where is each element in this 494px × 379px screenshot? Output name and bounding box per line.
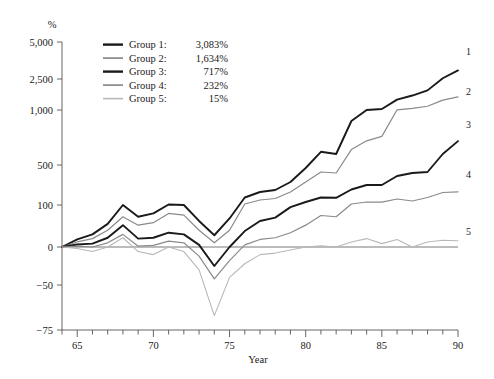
- x-tick-label: 80: [300, 340, 311, 351]
- x-axis-title: Year: [248, 354, 268, 365]
- legend-label: Group 2:: [129, 53, 167, 64]
- legend-value: 232%: [204, 80, 229, 91]
- series-end-label: 3: [466, 119, 471, 130]
- y-tick-label: −50: [37, 280, 53, 291]
- legend-label: Group 3:: [129, 66, 167, 77]
- series-end-label: 4: [466, 169, 471, 180]
- x-tick-label: 85: [377, 340, 388, 351]
- series-end-labels: 12345: [466, 46, 471, 237]
- y-tick-label: 1,000: [29, 105, 53, 116]
- legend-label: Group 4:: [129, 80, 167, 91]
- y-axis-unit-label: %: [48, 19, 57, 30]
- x-tick-label: 70: [148, 340, 159, 351]
- x-axis: 657075808590: [62, 330, 463, 351]
- series-end-label: 1: [466, 46, 471, 57]
- legend: Group 1:3,083%Group 2:1,634%Group 3:717%…: [103, 39, 228, 104]
- legend-label: Group 1:: [129, 39, 167, 50]
- legend-value: 717%: [204, 66, 229, 77]
- series-lines: [62, 70, 458, 315]
- legend-value: 15%: [209, 93, 229, 104]
- x-tick-label: 75: [224, 340, 235, 351]
- line-chart: 5,0002,5001,0005001000−50−75 65707580859…: [0, 0, 494, 379]
- chart-canvas: 5,0002,5001,0005001000−50−75 65707580859…: [0, 0, 494, 379]
- series-line: [62, 97, 458, 247]
- y-tick-label: 2,500: [29, 74, 53, 85]
- series-line: [62, 238, 458, 316]
- series-end-label: 2: [466, 86, 471, 97]
- y-tick-label: 500: [37, 160, 53, 171]
- legend-value: 1,634%: [196, 53, 229, 64]
- legend-label: Group 5:: [129, 93, 167, 104]
- series-end-label: 5: [466, 226, 471, 237]
- x-tick-label: 90: [453, 340, 464, 351]
- legend-value: 3,083%: [196, 39, 229, 50]
- x-tick-label: 65: [72, 340, 83, 351]
- y-tick-label: −75: [37, 325, 53, 336]
- y-axis: 5,0002,5001,0005001000−50−75: [29, 37, 62, 336]
- y-tick-label: 100: [37, 200, 53, 211]
- y-tick-label: 0: [48, 242, 53, 253]
- y-tick-label: 5,000: [29, 37, 53, 48]
- series-line: [62, 192, 458, 279]
